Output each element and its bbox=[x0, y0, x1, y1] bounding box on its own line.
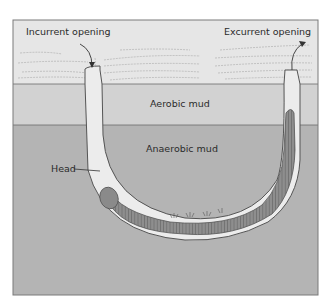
label-head: Head bbox=[51, 163, 76, 174]
label-anaerobic-mud: Anaerobic mud bbox=[146, 143, 218, 154]
label-excurrent-opening: Excurrent opening bbox=[224, 26, 311, 37]
label-incurrent-opening: Incurrent opening bbox=[26, 26, 111, 37]
label-aerobic-mud: Aerobic mud bbox=[150, 98, 210, 109]
burrow-diagram: Incurrent opening Excurrent opening Aero… bbox=[0, 0, 331, 306]
